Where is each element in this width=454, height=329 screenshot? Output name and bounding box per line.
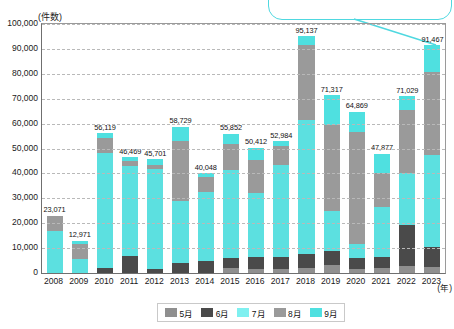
x-axis-tick-label: 2023 <box>422 276 441 286</box>
y-axis: 010,00020,00030,00040,00050,00060,00070,… <box>0 23 38 274</box>
callout-bubble <box>268 0 452 20</box>
bar-segment <box>97 153 113 268</box>
bar-segment <box>298 254 314 268</box>
y-axis-tick-label: 0 <box>0 267 38 277</box>
grid-line <box>42 173 445 174</box>
legend-swatch-icon <box>201 308 213 317</box>
bar-segment <box>147 269 163 273</box>
legend-label: 5月 <box>180 307 193 319</box>
legend-swatch-icon <box>165 308 177 317</box>
bar-value-label: 40,048 <box>195 163 217 172</box>
bar-segment <box>349 258 365 270</box>
legend-item[interactable]: 7月 <box>237 307 264 319</box>
bar-segment <box>349 269 365 273</box>
bar-segment <box>324 95 340 125</box>
bar-stack <box>147 159 163 273</box>
x-axis-tick-label: 2009 <box>69 276 88 286</box>
bar-segment <box>147 169 163 269</box>
bar-value-label: 95,137 <box>295 26 317 35</box>
legend-swatch-icon <box>237 308 249 317</box>
bar-stack <box>324 95 340 273</box>
legend-item[interactable]: 9月 <box>310 307 337 319</box>
bar-stack <box>298 36 314 273</box>
grid-line <box>42 198 445 199</box>
bar-segment <box>198 261 214 273</box>
chart-legend: 5月6月7月8月9月 <box>157 303 345 322</box>
bar-value-label: 23,071 <box>44 205 66 214</box>
grid-line <box>42 149 445 150</box>
bar-segment <box>248 257 264 269</box>
bar-segment <box>298 268 314 273</box>
legend-item[interactable]: 5月 <box>165 307 192 319</box>
grid-line <box>42 74 445 75</box>
bar-stack <box>97 133 113 273</box>
bar-segment <box>298 120 314 253</box>
x-axis-tick-label: 2013 <box>170 276 189 286</box>
bar-stack <box>374 154 390 273</box>
x-axis-tick-label: 2010 <box>94 276 113 286</box>
plot-area: 23,07112,97156,11946,46945,70158,72940,0… <box>41 23 446 274</box>
bar-segment <box>424 247 440 267</box>
y-axis-tick-label: 40,000 <box>0 167 38 177</box>
bar-stack <box>223 134 239 273</box>
bar-stack <box>273 141 289 273</box>
bar-segment <box>374 257 390 268</box>
y-axis-unit-label: (件数) <box>38 10 62 23</box>
x-axis: 2008200920102011201220132014201520162017… <box>41 276 446 292</box>
bar-segment <box>47 231 63 273</box>
bar-stack <box>424 45 440 273</box>
bar-stack <box>72 241 88 273</box>
legend-label: 7月 <box>252 307 265 319</box>
bar-segment <box>172 201 188 263</box>
bar-segment <box>248 269 264 273</box>
bar-segment <box>72 244 88 258</box>
legend-item[interactable]: 6月 <box>201 307 228 319</box>
bar-segment <box>349 112 365 132</box>
bar-segment <box>273 165 289 257</box>
bar-segment <box>399 266 415 273</box>
y-axis-tick-label: 80,000 <box>0 68 38 78</box>
bar-segment <box>198 192 214 261</box>
bar-segment <box>324 265 340 273</box>
x-axis-tick-label: 2011 <box>120 276 138 286</box>
bar-value-label: 71,317 <box>321 85 343 94</box>
legend-swatch-icon <box>310 308 322 317</box>
bar-value-label: 71,029 <box>396 86 418 95</box>
bar-segment <box>223 258 239 268</box>
legend-label: 9月 <box>324 307 337 319</box>
bar-segment <box>97 138 113 153</box>
bar-segment <box>298 36 314 45</box>
legend-item[interactable]: 8月 <box>274 307 301 319</box>
bar-value-label: 64,869 <box>346 101 368 110</box>
y-axis-tick-label: 30,000 <box>0 192 38 202</box>
bar-stack <box>248 148 264 273</box>
bar-segment <box>374 268 390 273</box>
bar-segment <box>399 110 415 173</box>
bar-segment <box>223 268 239 273</box>
bar-segment <box>324 211 340 251</box>
bar-value-label: 12,971 <box>69 230 91 239</box>
bar-value-label: 52,984 <box>270 131 292 140</box>
bar-stack <box>122 157 138 273</box>
y-axis-tick-label: 100,000 <box>0 18 38 28</box>
bar-segment <box>97 268 113 273</box>
x-axis-tick-label: 2008 <box>44 276 63 286</box>
bar-segment <box>298 45 314 120</box>
x-axis-tick-label: 2020 <box>346 276 365 286</box>
grid-line <box>42 24 445 25</box>
legend-swatch-icon <box>274 308 286 317</box>
bar-segment <box>248 160 264 193</box>
legend-label: 8月 <box>288 307 301 319</box>
bar-segment <box>374 154 390 173</box>
bar-segment <box>223 134 239 144</box>
bar-segment <box>72 259 88 273</box>
grid-line <box>42 49 445 50</box>
bar-segment <box>324 251 340 265</box>
legend-label: 6月 <box>216 307 229 319</box>
bar-segment <box>399 225 415 266</box>
grid-line <box>42 124 445 125</box>
x-axis-tick-label: 2012 <box>145 276 164 286</box>
grid-line <box>42 223 445 224</box>
bar-segment <box>424 72 440 155</box>
bar-value-label: 45,701 <box>144 149 166 158</box>
